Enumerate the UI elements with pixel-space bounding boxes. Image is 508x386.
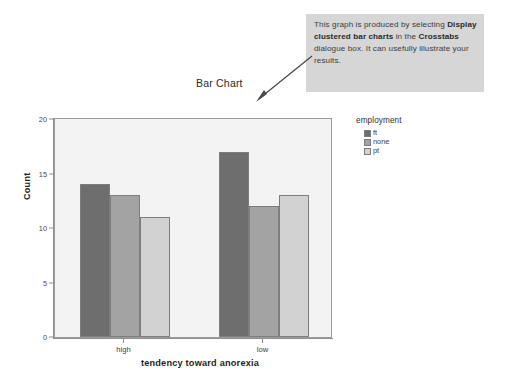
- annotation-callout: This graph is produced by selecting Disp…: [306, 14, 484, 92]
- y-tick-mark: [49, 228, 53, 229]
- y-tick: 10: [39, 224, 53, 233]
- legend: employment ftnonept: [356, 116, 402, 156]
- x-tick-label: low: [228, 345, 298, 354]
- plot-area: [54, 118, 332, 338]
- legend-item-none: none: [364, 138, 402, 146]
- x-tick-mark: [262, 338, 263, 343]
- y-tick-mark: [49, 119, 53, 120]
- bar-low-none: [249, 206, 279, 337]
- legend-items: ftnonept: [356, 129, 402, 155]
- bar-low-ft: [219, 152, 249, 337]
- x-tick: low: [228, 338, 298, 354]
- y-tick-mark: [49, 337, 53, 338]
- legend-title: employment: [356, 116, 402, 125]
- y-axis: 05101520: [53, 118, 54, 339]
- x-axis: highlow: [54, 338, 333, 339]
- legend-item-ft: ft: [364, 129, 402, 137]
- x-tick-label: high: [89, 345, 159, 354]
- y-tick-mark: [49, 173, 53, 174]
- legend-swatch: [364, 148, 371, 155]
- y-tick-label: 15: [39, 169, 49, 178]
- y-tick: 15: [39, 169, 53, 178]
- legend-swatch: [364, 130, 371, 137]
- bar-high-ft: [80, 184, 110, 337]
- x-tick: high: [89, 338, 159, 354]
- x-axis-title: tendency toward anorexia: [0, 358, 400, 368]
- chart-title: Bar Chart: [196, 77, 243, 89]
- y-tick-label: 20: [39, 115, 49, 124]
- legend-label: none: [373, 138, 389, 146]
- legend-item-pt: pt: [364, 147, 402, 155]
- bars-container: [55, 119, 331, 337]
- y-tick-label: 10: [39, 224, 49, 233]
- legend-label: ft: [373, 129, 377, 137]
- annotation-text: This graph is produced by selecting Disp…: [314, 20, 477, 65]
- bar-high-none: [110, 195, 140, 337]
- bar-high-pt: [140, 217, 170, 337]
- y-tick-mark: [49, 282, 53, 283]
- legend-label: pt: [373, 147, 379, 155]
- x-tick-mark: [123, 338, 124, 343]
- y-axis-title: Count: [22, 173, 32, 201]
- y-tick: 5: [43, 278, 53, 287]
- bar-low-pt: [279, 195, 309, 337]
- legend-swatch: [364, 139, 371, 146]
- y-tick: 0: [43, 333, 53, 342]
- y-tick: 20: [39, 115, 53, 124]
